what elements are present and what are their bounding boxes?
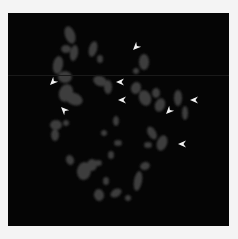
chromosome xyxy=(109,187,123,200)
chromosome-spread-image xyxy=(8,13,229,226)
chromosome xyxy=(139,54,149,70)
scan-line-artifact xyxy=(8,75,229,76)
chromosome xyxy=(93,188,105,202)
chromosome xyxy=(139,161,151,172)
chromosome xyxy=(65,154,76,166)
chromosome xyxy=(113,116,119,126)
chromosome xyxy=(50,120,62,130)
chromosome xyxy=(144,142,152,148)
micrograph-panel xyxy=(8,13,229,226)
chromosome xyxy=(94,160,102,166)
chromosome xyxy=(153,97,167,114)
chromosome xyxy=(114,140,122,146)
arrowhead-1-icon xyxy=(131,42,142,53)
chromosome xyxy=(152,88,160,98)
chromosome xyxy=(62,25,78,45)
chromosome xyxy=(61,45,71,53)
chromosome xyxy=(104,80,112,94)
arrowhead-8-icon xyxy=(178,141,186,148)
chromosome xyxy=(97,55,103,63)
chromosome xyxy=(108,151,114,159)
chromosome xyxy=(63,120,69,126)
chromosome xyxy=(132,170,143,191)
chromosome xyxy=(87,40,99,58)
chromosome xyxy=(125,195,131,201)
arrowhead-5-icon xyxy=(118,97,126,104)
chromosome xyxy=(133,68,139,74)
arrowhead-3-icon xyxy=(59,105,70,116)
chromosome xyxy=(103,177,109,185)
arrowhead-4-icon xyxy=(116,79,124,86)
chromosome xyxy=(145,125,159,141)
chromosome xyxy=(51,129,59,141)
arrowhead-7-icon xyxy=(164,106,175,117)
arrowhead-6-icon xyxy=(190,97,198,104)
chromosome xyxy=(101,130,107,136)
chromosome xyxy=(182,106,188,120)
arrowhead-2-icon xyxy=(48,77,59,88)
chromosome xyxy=(174,90,182,106)
chromosome xyxy=(58,71,72,83)
